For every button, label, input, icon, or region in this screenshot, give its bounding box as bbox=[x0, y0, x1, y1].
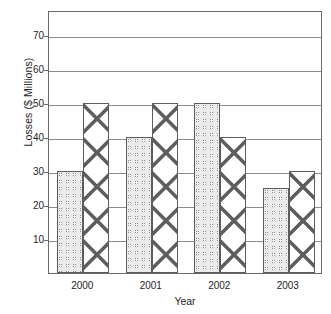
x-tick-label-2000: 2000 bbox=[48, 280, 117, 291]
bar-chart: Losses ($ Millions) 10203040506070 20002… bbox=[0, 0, 331, 314]
x-tick-label-2003: 2003 bbox=[254, 280, 323, 291]
y-tick-label: 30 bbox=[22, 166, 44, 177]
y-tick-label: 50 bbox=[22, 98, 44, 109]
x-axis-title: Year bbox=[48, 295, 322, 307]
y-tick-mark bbox=[44, 36, 48, 37]
y-tick-label: 10 bbox=[22, 234, 44, 245]
y-tick-mark bbox=[44, 138, 48, 139]
x-tick-label-2001: 2001 bbox=[117, 280, 186, 291]
y-tick-mark bbox=[44, 206, 48, 207]
y-tick-label: 20 bbox=[22, 200, 44, 211]
y-tick-label: 60 bbox=[22, 64, 44, 75]
y-tick-mark bbox=[44, 70, 48, 71]
y-axis-ticks: 10203040506070 bbox=[0, 0, 331, 314]
y-tick-mark bbox=[44, 172, 48, 173]
y-tick-label: 40 bbox=[22, 132, 44, 143]
y-tick-label: 70 bbox=[22, 30, 44, 41]
y-tick-mark bbox=[44, 240, 48, 241]
x-tick-label-2002: 2002 bbox=[185, 280, 254, 291]
y-tick-mark bbox=[44, 104, 48, 105]
